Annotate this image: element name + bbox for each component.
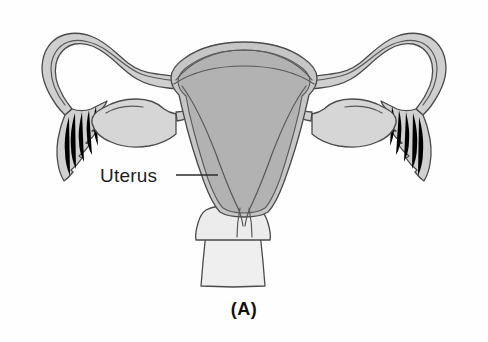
- uterus-label: Uterus: [100, 165, 157, 186]
- figure-caption: (A): [231, 299, 258, 319]
- reproductive-system-diagram: Uterus (A): [0, 0, 488, 342]
- figure-root: Uterus (A): [0, 0, 488, 342]
